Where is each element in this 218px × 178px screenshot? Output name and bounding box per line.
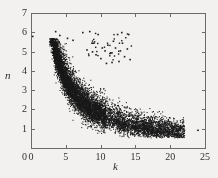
- y-tick-label: 2: [9, 103, 27, 114]
- x-tick-label: 5: [56, 151, 76, 162]
- y-tick-label: 6: [9, 26, 27, 37]
- y-tick-label: 7: [9, 7, 27, 18]
- x-tick-label: 10: [91, 151, 111, 162]
- x-tick-label: 15: [125, 151, 145, 162]
- x-axis-label: k: [113, 160, 118, 172]
- y-tick-label: 4: [9, 65, 27, 76]
- y-tick-label: 0: [9, 151, 27, 162]
- scatter-plot-figure: n k 051015202501234567: [0, 0, 218, 178]
- y-tick-label: 3: [9, 84, 27, 95]
- x-tick-label: 20: [160, 151, 180, 162]
- x-tick-label: 25: [195, 151, 215, 162]
- y-tick-label: 5: [9, 46, 27, 57]
- y-tick-label: 1: [9, 123, 27, 134]
